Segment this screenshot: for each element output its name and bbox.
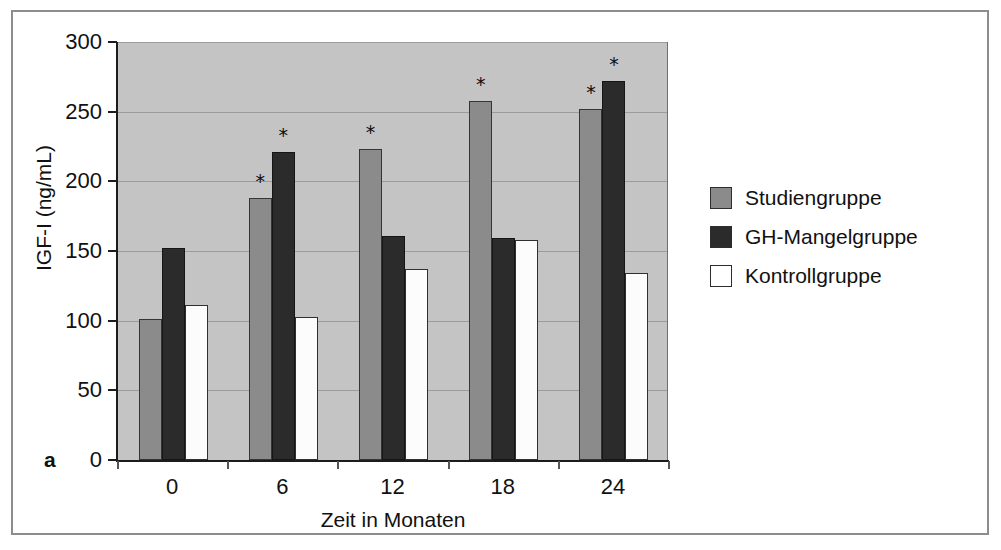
bar bbox=[295, 317, 318, 461]
legend-item: Studiengruppe bbox=[710, 178, 970, 217]
bar bbox=[492, 238, 515, 460]
significance-marker: * bbox=[579, 83, 603, 102]
legend-item: GH-Mangelgruppe bbox=[710, 217, 970, 256]
bar bbox=[382, 236, 405, 460]
bar bbox=[469, 101, 492, 460]
legend-swatch-icon bbox=[710, 226, 732, 248]
bar bbox=[405, 269, 428, 460]
bar bbox=[185, 305, 208, 460]
y-axis-tick-mark bbox=[108, 320, 117, 322]
x-axis-tick-label: 0 bbox=[132, 474, 212, 500]
x-axis-tick-mark bbox=[448, 461, 450, 469]
y-axis-tick-mark bbox=[108, 459, 117, 461]
y-axis-tick-label: 300 bbox=[42, 31, 102, 53]
y-axis-tick-mark bbox=[108, 180, 117, 182]
y-axis-tick-mark bbox=[108, 389, 117, 391]
legend-swatch-icon bbox=[710, 265, 732, 287]
y-axis-tick-mark bbox=[108, 250, 117, 252]
bar bbox=[359, 149, 382, 460]
x-axis-tick-label: 6 bbox=[242, 474, 322, 500]
plot-area: ****** bbox=[117, 42, 668, 460]
bar bbox=[602, 81, 625, 460]
significance-marker: * bbox=[469, 75, 493, 94]
x-axis-line bbox=[116, 460, 669, 462]
x-axis-tick-mark bbox=[558, 461, 560, 469]
x-axis-tick-label: 18 bbox=[463, 474, 543, 500]
bar bbox=[139, 319, 162, 460]
x-axis-tick-mark bbox=[227, 461, 229, 469]
y-axis-title: IGF-I (ng/mL) bbox=[32, 78, 56, 338]
y-axis-tick-mark bbox=[108, 111, 117, 113]
significance-marker: * bbox=[271, 126, 295, 145]
significance-marker: * bbox=[248, 172, 272, 191]
y-axis-tick-mark bbox=[108, 41, 117, 43]
bar bbox=[272, 152, 295, 460]
chart-legend: StudiengruppeGH-MangelgruppeKontrollgrup… bbox=[710, 178, 970, 295]
legend-item-label: GH-Mangelgruppe bbox=[745, 225, 918, 249]
x-axis-tick-label: 24 bbox=[573, 474, 653, 500]
bar bbox=[625, 273, 648, 460]
legend-item: Kontrollgruppe bbox=[710, 256, 970, 295]
legend-item-label: Studiengruppe bbox=[745, 186, 882, 210]
x-axis-tick-mark bbox=[337, 461, 339, 469]
panel-letter: a bbox=[44, 448, 56, 472]
legend-item-label: Kontrollgruppe bbox=[745, 264, 882, 288]
bar bbox=[162, 248, 185, 460]
figure-root: ****** 050100150200250300 06121824 IGF-I… bbox=[0, 0, 1001, 550]
x-axis-title: Zeit in Monaten bbox=[117, 508, 669, 532]
significance-marker: * bbox=[359, 123, 383, 142]
x-axis-tick-mark bbox=[117, 461, 119, 469]
y-axis-tick-label: 50 bbox=[42, 379, 102, 401]
bar bbox=[579, 109, 602, 460]
x-axis-tick-label: 12 bbox=[353, 474, 433, 500]
significance-marker: * bbox=[602, 55, 626, 74]
legend-swatch-icon bbox=[710, 187, 732, 209]
bar bbox=[249, 198, 272, 460]
x-axis-tick-mark bbox=[668, 461, 670, 469]
gridline bbox=[118, 42, 667, 43]
bar bbox=[515, 240, 538, 460]
